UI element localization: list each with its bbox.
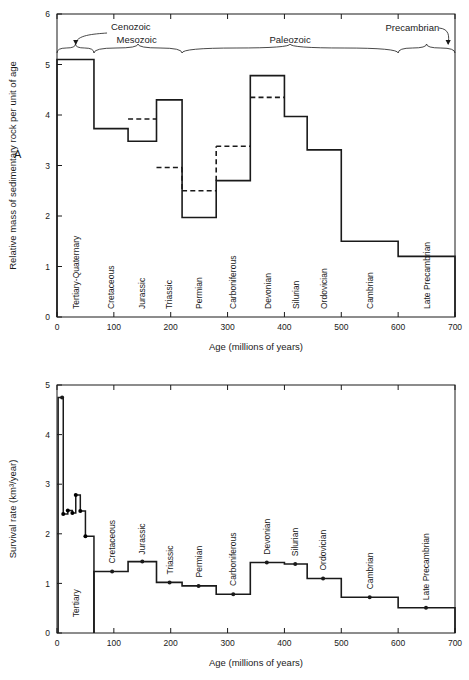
x-tick-label: 200: [164, 322, 178, 332]
y-tick-label: 1: [45, 579, 50, 589]
bar-label-tertiary: Tertiary: [71, 589, 81, 618]
bar-label-carboniferous: Carboniferous: [228, 256, 238, 309]
x-axis-title: Age (millions of years): [209, 341, 303, 352]
era-label-paleozoic: Paleozoic: [270, 34, 311, 45]
era-bracket-mesozoic: [94, 44, 182, 53]
data-point: [424, 606, 428, 610]
bar-label-permian: Permian: [194, 277, 204, 309]
era-label-cenozoic: Cenozoic: [111, 21, 151, 32]
y-axis-title: Relative mass of sedimentary rock per un…: [7, 61, 18, 270]
panel-a-letter: A: [14, 148, 21, 160]
x-tick-label: 700: [448, 322, 462, 332]
leader-arrow-cenozoic: [73, 40, 78, 45]
x-tick-label: 200: [164, 638, 178, 648]
curve-dot: [70, 511, 74, 515]
data-point: [168, 580, 172, 584]
y-axis-title: Survival rate (km³/year): [7, 460, 18, 559]
y-tick-label: 4: [45, 110, 50, 120]
bar-label-silurian: Silurian: [291, 280, 301, 309]
bar-step-outline: [57, 59, 455, 317]
x-tick-label: 400: [277, 638, 291, 648]
data-point: [140, 560, 144, 564]
plot-frame: [57, 385, 455, 633]
y-tick-label: 2: [45, 529, 50, 539]
y-tick-label: 5: [45, 380, 50, 390]
era-bracket-precambrian: [398, 44, 455, 53]
bar-label-ordovician: Ordovician: [319, 268, 329, 309]
plot-frame: [57, 14, 455, 317]
data-point: [231, 592, 235, 596]
x-tick-label: 0: [55, 322, 60, 332]
bar-label-late-precambrian: Late Precambrian: [422, 242, 432, 309]
era-label-mesozoic: Mesozoic: [117, 34, 157, 45]
y-tick-label: 1: [45, 262, 50, 272]
bar-label-silurian: Silurian: [290, 528, 300, 557]
bar-label-cambrian: Cambrian: [365, 272, 375, 309]
y-tick-label: 2: [45, 211, 50, 221]
x-tick-label: 700: [448, 638, 462, 648]
bar-label-ordovician: Ordovician: [318, 530, 328, 571]
curve-dot: [74, 493, 78, 497]
bar-label-cretaceous: Cretaceous: [106, 266, 116, 309]
data-point: [60, 395, 64, 399]
panel-a-relative-mass-chart: A 01002003004005006007000123456Age (mill…: [0, 0, 469, 360]
bar-label-jurassic: Jurassic: [137, 523, 147, 555]
curve-dot: [78, 509, 82, 513]
x-tick-label: 600: [391, 638, 405, 648]
data-point: [110, 569, 114, 573]
y-tick-label: 4: [45, 430, 50, 440]
era-label-precambrian: Precambrian: [385, 22, 439, 33]
bar-label-triassic: Triassic: [164, 279, 174, 309]
data-point: [265, 561, 269, 565]
curve-dot: [66, 508, 70, 512]
x-tick-label: 100: [107, 638, 121, 648]
era-bracket-paleozoic: [182, 44, 398, 53]
bar-label-cretaceous: Cretaceous: [107, 520, 117, 563]
panel-b-svg: 0100200300400500600700012345Age (million…: [0, 360, 469, 680]
leader-arrow-precambrian: [446, 40, 451, 45]
bar-label-cambrian: Cambrian: [365, 552, 375, 589]
curve-dot: [61, 512, 65, 516]
bar-label-permian: Permian: [194, 546, 204, 578]
curve-dot: [83, 534, 87, 538]
y-tick-label: 6: [45, 9, 50, 19]
data-point: [368, 595, 372, 599]
bar-label-jurassic: Jurassic: [137, 277, 147, 309]
bar-label-devonian: Devonian: [263, 273, 273, 309]
bar-label-carboniferous: Carboniferous: [228, 532, 238, 585]
y-tick-label: 5: [45, 60, 50, 70]
panel-b-survival-rate-chart: B 0100200300400500600700012345Age (milli…: [0, 360, 469, 680]
x-tick-label: 500: [334, 322, 348, 332]
x-tick-label: 300: [220, 322, 234, 332]
x-tick-label: 300: [220, 638, 234, 648]
x-axis-title: Age (millions of years): [209, 657, 303, 668]
bar-label-tertiary-quaternary: Tertiary-Quaternary: [71, 235, 81, 309]
era-bracket-cenozoic: [57, 44, 94, 53]
bar-label-late-precambrian: Late Precambrian: [421, 533, 431, 600]
y-tick-label: 0: [45, 628, 50, 638]
leader-cenozoic: [76, 33, 107, 44]
x-tick-label: 600: [391, 322, 405, 332]
y-tick-label: 0: [45, 312, 50, 322]
x-tick-label: 100: [107, 322, 121, 332]
x-tick-label: 0: [55, 638, 60, 648]
bar-label-devonian: Devonian: [262, 518, 272, 554]
data-point: [293, 562, 297, 566]
x-tick-label: 400: [277, 322, 291, 332]
data-point: [197, 584, 201, 588]
y-tick-label: 3: [45, 479, 50, 489]
y-tick-label: 3: [45, 161, 50, 171]
bar-step-outline: [94, 562, 455, 633]
bar-label-triassic: Triassic: [165, 545, 175, 575]
x-tick-label: 500: [334, 638, 348, 648]
data-point: [321, 576, 325, 580]
panel-a-svg: 01002003004005006007000123456Age (millio…: [0, 0, 469, 360]
